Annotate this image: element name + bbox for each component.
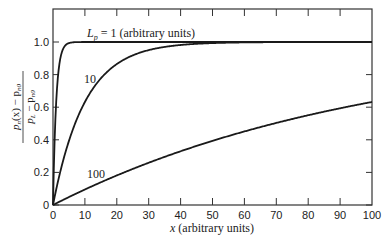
x-tick-label: 80 bbox=[302, 209, 314, 221]
y-tick-label: 0 bbox=[43, 199, 49, 211]
x-tick-label: 40 bbox=[174, 209, 186, 221]
x-tick-label: 0 bbox=[50, 209, 56, 221]
y-tick-label: 0.4 bbox=[34, 134, 49, 146]
chart: 00.20.40.60.81.0 0102030405060708090100 … bbox=[0, 0, 382, 240]
x-tick-label: 90 bbox=[334, 209, 346, 221]
x-axis-label: x (arbitrary units) bbox=[169, 221, 254, 235]
y-label-numerator: pn(x) − pn0 bbox=[9, 83, 23, 131]
x-tick-label: 50 bbox=[206, 209, 218, 221]
y-tick-label: 0.2 bbox=[34, 166, 49, 178]
x-tick-label: 100 bbox=[363, 209, 381, 221]
x-tick-label: 30 bbox=[143, 209, 155, 221]
x-tick-label: 10 bbox=[79, 209, 91, 221]
y-tick-label: 1.0 bbox=[34, 36, 49, 48]
y-tick-label: 0.6 bbox=[34, 101, 49, 113]
x-tick-label: 70 bbox=[270, 209, 282, 221]
curve-label-10: 10 bbox=[84, 72, 96, 86]
x-tick-label: 60 bbox=[238, 209, 250, 221]
x-tick-label: 20 bbox=[111, 209, 123, 221]
x-axis-ticks: 0102030405060708090100 bbox=[50, 9, 381, 221]
curve-label-100: 100 bbox=[87, 167, 105, 181]
y-axis-ticks: 00.20.40.60.81.0 bbox=[34, 36, 372, 211]
curve-100 bbox=[53, 102, 372, 205]
y-tick-label: 0.8 bbox=[34, 69, 49, 81]
y-axis-label: pn(x) − pn0 pL − pn0 bbox=[9, 71, 37, 143]
curve-label-lp1: Lp = 1 (arbitrary units) bbox=[86, 26, 195, 42]
y-label-denominator: pL − pn0 bbox=[23, 90, 37, 125]
